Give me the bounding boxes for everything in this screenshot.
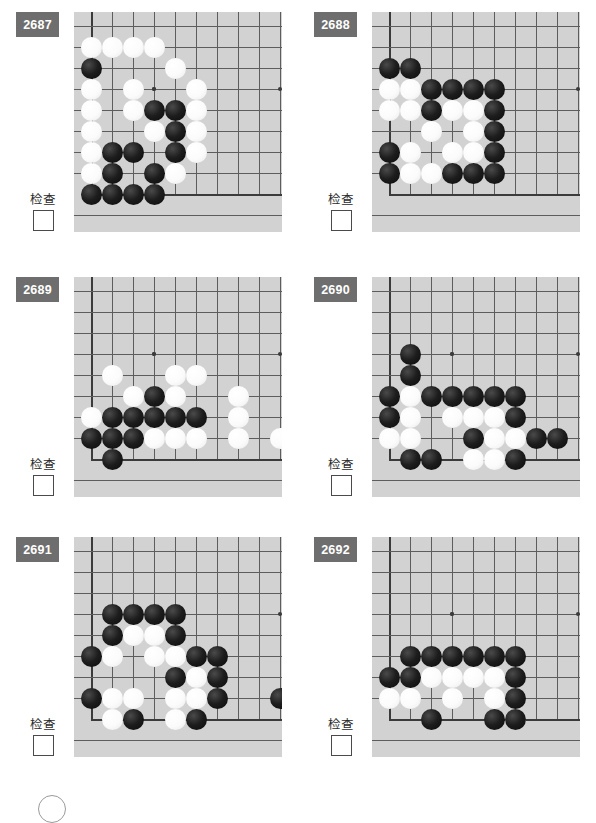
- go-board[interactable]: [372, 537, 580, 757]
- white-stone[interactable]: [228, 407, 249, 428]
- check-checkbox[interactable]: [331, 735, 352, 756]
- white-stone[interactable]: [186, 100, 207, 121]
- white-stone[interactable]: [400, 407, 421, 428]
- white-stone[interactable]: [228, 428, 249, 449]
- black-stone[interactable]: [547, 428, 568, 449]
- white-stone[interactable]: [165, 646, 186, 667]
- black-stone[interactable]: [463, 163, 484, 184]
- black-stone[interactable]: [186, 407, 207, 428]
- black-stone[interactable]: [270, 688, 283, 709]
- black-stone[interactable]: [144, 100, 165, 121]
- white-stone[interactable]: [484, 688, 505, 709]
- white-stone[interactable]: [81, 37, 102, 58]
- black-stone[interactable]: [442, 163, 463, 184]
- white-stone[interactable]: [165, 163, 186, 184]
- white-stone[interactable]: [442, 407, 463, 428]
- white-stone[interactable]: [421, 121, 442, 142]
- white-stone[interactable]: [186, 667, 207, 688]
- black-stone[interactable]: [81, 184, 102, 205]
- white-stone[interactable]: [484, 667, 505, 688]
- white-stone[interactable]: [400, 142, 421, 163]
- white-stone[interactable]: [400, 428, 421, 449]
- black-stone[interactable]: [144, 163, 165, 184]
- white-stone[interactable]: [165, 58, 186, 79]
- check-checkbox[interactable]: [331, 475, 352, 496]
- white-stone[interactable]: [123, 386, 144, 407]
- go-board[interactable]: [74, 12, 282, 232]
- white-stone[interactable]: [442, 667, 463, 688]
- white-stone[interactable]: [144, 625, 165, 646]
- black-stone[interactable]: [463, 646, 484, 667]
- go-board[interactable]: [74, 277, 282, 497]
- black-stone[interactable]: [165, 142, 186, 163]
- white-stone[interactable]: [165, 688, 186, 709]
- check-checkbox[interactable]: [33, 475, 54, 496]
- black-stone[interactable]: [207, 688, 228, 709]
- black-stone[interactable]: [165, 625, 186, 646]
- white-stone[interactable]: [400, 79, 421, 100]
- black-stone[interactable]: [400, 58, 421, 79]
- check-checkbox[interactable]: [331, 210, 352, 231]
- black-stone[interactable]: [442, 386, 463, 407]
- white-stone[interactable]: [400, 386, 421, 407]
- white-stone[interactable]: [228, 386, 249, 407]
- black-stone[interactable]: [421, 449, 442, 470]
- black-stone[interactable]: [505, 449, 526, 470]
- white-stone[interactable]: [102, 646, 123, 667]
- white-stone[interactable]: [186, 121, 207, 142]
- white-stone[interactable]: [102, 709, 123, 730]
- black-stone[interactable]: [463, 79, 484, 100]
- black-stone[interactable]: [102, 163, 123, 184]
- black-stone[interactable]: [484, 386, 505, 407]
- black-stone[interactable]: [144, 386, 165, 407]
- black-stone[interactable]: [102, 428, 123, 449]
- black-stone[interactable]: [186, 709, 207, 730]
- black-stone[interactable]: [400, 365, 421, 386]
- black-stone[interactable]: [484, 100, 505, 121]
- white-stone[interactable]: [463, 142, 484, 163]
- white-stone[interactable]: [123, 625, 144, 646]
- white-stone[interactable]: [186, 142, 207, 163]
- white-stone[interactable]: [463, 100, 484, 121]
- white-stone[interactable]: [186, 79, 207, 100]
- black-stone[interactable]: [505, 688, 526, 709]
- black-stone[interactable]: [102, 449, 123, 470]
- white-stone[interactable]: [484, 407, 505, 428]
- white-stone[interactable]: [400, 163, 421, 184]
- black-stone[interactable]: [484, 79, 505, 100]
- black-stone[interactable]: [165, 604, 186, 625]
- black-stone[interactable]: [102, 625, 123, 646]
- black-stone[interactable]: [526, 428, 547, 449]
- black-stone[interactable]: [400, 667, 421, 688]
- white-stone[interactable]: [144, 646, 165, 667]
- white-stone[interactable]: [463, 407, 484, 428]
- black-stone[interactable]: [421, 386, 442, 407]
- go-board[interactable]: [372, 12, 580, 232]
- white-stone[interactable]: [81, 100, 102, 121]
- black-stone[interactable]: [207, 646, 228, 667]
- black-stone[interactable]: [400, 646, 421, 667]
- black-stone[interactable]: [165, 407, 186, 428]
- black-stone[interactable]: [463, 386, 484, 407]
- black-stone[interactable]: [442, 79, 463, 100]
- black-stone[interactable]: [123, 407, 144, 428]
- white-stone[interactable]: [144, 428, 165, 449]
- black-stone[interactable]: [123, 184, 144, 205]
- check-checkbox[interactable]: [33, 210, 54, 231]
- black-stone[interactable]: [505, 646, 526, 667]
- black-stone[interactable]: [81, 688, 102, 709]
- white-stone[interactable]: [379, 688, 400, 709]
- black-stone[interactable]: [102, 184, 123, 205]
- black-stone[interactable]: [144, 407, 165, 428]
- black-stone[interactable]: [484, 646, 505, 667]
- black-stone[interactable]: [505, 667, 526, 688]
- black-stone[interactable]: [123, 142, 144, 163]
- white-stone[interactable]: [442, 100, 463, 121]
- black-stone[interactable]: [505, 407, 526, 428]
- black-stone[interactable]: [484, 142, 505, 163]
- go-board[interactable]: [372, 277, 580, 497]
- white-stone[interactable]: [165, 365, 186, 386]
- white-stone[interactable]: [484, 449, 505, 470]
- white-stone[interactable]: [186, 428, 207, 449]
- black-stone[interactable]: [81, 428, 102, 449]
